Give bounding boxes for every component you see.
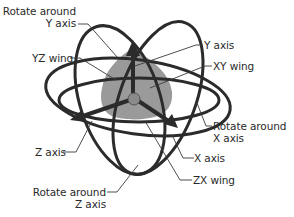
- leader-rotate-y: [78, 24, 118, 58]
- label-x-axis: X axis: [194, 152, 225, 164]
- gizmo-graphic: [0, 0, 294, 217]
- label-zx-wing: ZX wing: [193, 174, 235, 186]
- rotation-gizmo-diagram: Rotate around Y axis YZ wing Y axis XY w…: [0, 0, 294, 217]
- label-line: X axis: [213, 132, 286, 144]
- leader-y-axis: [135, 45, 203, 66]
- label-y-axis: Y axis: [204, 39, 234, 51]
- label-rotate-around-x: Rotate around X axis: [213, 120, 286, 144]
- label-line: Y axis: [2, 17, 76, 29]
- label-line: Rotate around: [24, 186, 106, 198]
- label-rotate-around-z: Rotate around Z axis: [24, 186, 106, 210]
- label-line: Z axis: [24, 198, 106, 210]
- label-rotate-around-y: Rotate around Y axis: [2, 5, 76, 29]
- label-xy-wing: XY wing: [213, 60, 254, 72]
- center-knob: [128, 93, 140, 105]
- label-z-axis: Z axis: [35, 146, 66, 158]
- label-yz-wing: YZ wing: [32, 52, 73, 64]
- label-line: Rotate around: [2, 5, 76, 17]
- label-line: Rotate around: [213, 120, 286, 132]
